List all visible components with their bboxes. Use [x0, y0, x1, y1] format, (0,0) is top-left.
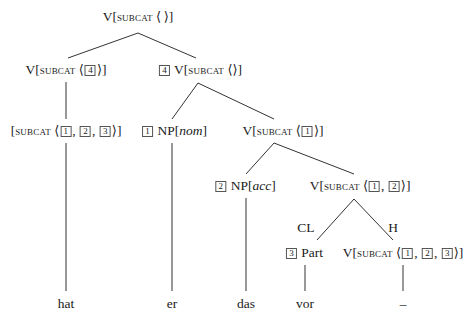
bracket: ]: [319, 123, 324, 138]
node-right: 4 V[subcat ⟨⟩]: [158, 62, 242, 78]
tag-box: 1: [60, 126, 71, 137]
node-left-child: [subcat ⟨1, 2, 3⟩]: [11, 123, 122, 139]
angle-open: ⟨: [79, 62, 84, 77]
bracket: ]: [406, 178, 411, 193]
tag-box: 2: [80, 126, 91, 137]
tag-box: 2: [215, 181, 226, 192]
node-np-acc: 2 NP[acc]: [214, 178, 275, 194]
node-cat: V: [174, 62, 184, 77]
tag-box: 3: [442, 248, 453, 259]
node-cat: V: [243, 123, 253, 138]
node-np-nom: 1 NP[nom]: [141, 123, 207, 139]
edge-label-h: H: [388, 220, 398, 236]
tree-edges: [0, 0, 471, 332]
tag-box: 1: [302, 126, 313, 137]
node-cat: V: [26, 62, 36, 77]
comma: ,: [414, 245, 417, 260]
word-er: er: [167, 296, 178, 312]
tag-box: 1: [402, 248, 413, 259]
tag-box: 1: [369, 181, 380, 192]
bracket: ]: [117, 123, 122, 138]
tag-box: 4: [159, 65, 170, 76]
node-cat: NP: [231, 178, 248, 193]
node-cat: V: [103, 9, 113, 24]
tag-box: 3: [286, 248, 297, 259]
angle-open: ⟨: [396, 245, 401, 260]
tag-box: 2: [389, 181, 400, 192]
feature-name: subcat: [40, 62, 76, 77]
node-cat: Part: [301, 245, 323, 260]
bracket: ]: [459, 245, 464, 260]
comma: ,: [92, 123, 95, 138]
node-cat: V: [343, 245, 353, 260]
angle-open: ⟨: [363, 178, 368, 193]
bracket: ]: [238, 62, 243, 77]
feature-name: subcat: [188, 62, 224, 77]
node-left: V[subcat ⟨4⟩]: [26, 62, 107, 78]
edge-root-right: [138, 33, 196, 58]
node-root: V[subcat ⟨ ⟩]: [103, 9, 174, 25]
angle-open: ⟨: [54, 123, 59, 138]
bracket: ]: [169, 9, 174, 24]
bracket: ]: [102, 62, 107, 77]
feature-name: subcat: [324, 178, 360, 193]
edge-v1-v12: [274, 143, 354, 174]
case-value: nom: [179, 123, 202, 138]
comma: ,: [72, 123, 75, 138]
edge-root-left: [68, 33, 138, 58]
feature-name: subcat: [257, 123, 293, 138]
tag-box: 2: [422, 248, 433, 259]
edge-label-cl: CL: [297, 220, 314, 236]
tag-box: 3: [100, 126, 111, 137]
angle-open: ⟨: [156, 9, 161, 24]
comma: ,: [434, 245, 437, 260]
angle-open: ⟨: [296, 123, 301, 138]
node-v123: V[subcat ⟨1, 2, 3⟩]: [343, 245, 464, 261]
word-vor: vor: [296, 296, 314, 312]
edge-v1-npacc: [246, 143, 274, 174]
feature-name: subcat: [15, 123, 51, 138]
node-cat: NP: [157, 123, 174, 138]
comma: ,: [381, 178, 384, 193]
edge-right-v1: [198, 83, 274, 119]
bracket: ]: [202, 123, 207, 138]
word-das: das: [237, 296, 255, 312]
node-v12: V[subcat ⟨1, 2⟩]: [310, 178, 411, 194]
edge-right-npnom: [172, 83, 198, 119]
word-trace: _: [400, 292, 407, 308]
node-cat: V: [310, 178, 320, 193]
feature-name: subcat: [357, 245, 393, 260]
edge-v12-part: [317, 199, 354, 240]
node-v1: V[subcat ⟨1⟩]: [243, 123, 324, 139]
tag-box: 1: [142, 126, 153, 137]
tag-box: 4: [85, 65, 96, 76]
node-part: 3 Part: [285, 245, 323, 261]
bracket: ]: [271, 178, 276, 193]
case-value: acc: [252, 178, 271, 193]
word-hat: hat: [58, 296, 75, 312]
feature-name: subcat: [117, 9, 153, 24]
